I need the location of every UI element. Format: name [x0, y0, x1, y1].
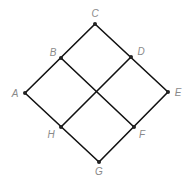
vertex-label-d: D: [137, 46, 144, 57]
vertex-c-dot-icon: [93, 22, 97, 26]
edges-group: [25, 24, 168, 162]
vertex-label-g: G: [95, 166, 103, 177]
vertex-label-f: F: [139, 129, 146, 140]
vertex-label-e: E: [175, 87, 182, 98]
vertex-label-a: A: [11, 88, 19, 99]
vertex-label-h: H: [47, 129, 55, 140]
vertex-e-dot-icon: [166, 90, 170, 94]
vertex-f-dot-icon: [132, 125, 136, 129]
vertex-a-dot-icon: [23, 91, 27, 95]
vertex-label-c: C: [91, 8, 99, 19]
vertex-g-dot-icon: [97, 160, 101, 164]
vertex-h-dot-icon: [59, 125, 63, 129]
vertex-d-dot-icon: [129, 55, 133, 59]
vertex-b-dot-icon: [59, 56, 63, 60]
vertex-label-b: B: [50, 47, 57, 58]
rhombus-grid-diagram: ABCDEFGH: [0, 0, 187, 185]
vertices-group: [23, 22, 170, 164]
